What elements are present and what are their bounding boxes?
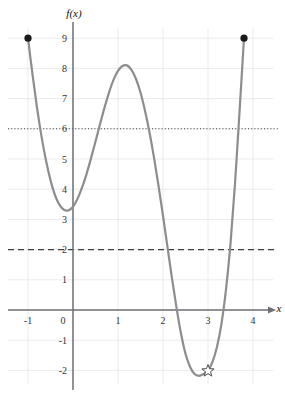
x-tick-label: 1 [116, 315, 121, 326]
y-tick-label: 6 [62, 123, 67, 134]
y-tick-label: -2 [59, 365, 67, 376]
y-tick-label: 5 [62, 154, 67, 165]
x-tick-label: 4 [251, 315, 256, 326]
y-axis-label: f(x) [66, 7, 82, 20]
y-tick-label: 7 [62, 93, 67, 104]
y-tick-label: 4 [62, 184, 67, 195]
y-tick-label: -1 [59, 335, 67, 346]
y-tick-label: 3 [62, 214, 67, 225]
right-endpoint-dot [240, 35, 247, 42]
axes-layer [8, 22, 276, 390]
y-tick-label: 2 [62, 244, 67, 255]
left-endpoint-dot [24, 35, 31, 42]
y-tick-label: 9 [62, 33, 67, 44]
x-tick-label: 2 [161, 315, 166, 326]
x-tick-label: 3 [206, 315, 211, 326]
function-graph-figure: -101234-2-1123456789 f(x)x [0, 0, 285, 395]
axis-titles-layer: f(x)x [66, 7, 281, 314]
x-tick-label: 0 [61, 315, 66, 326]
x-axis-arrowhead [268, 307, 276, 314]
chart-svg: -101234-2-1123456789 f(x)x [0, 0, 285, 395]
y-tick-label: 8 [62, 63, 67, 74]
x-tick-label: -1 [24, 315, 32, 326]
x-axis-label: x [276, 302, 282, 314]
markers-layer [24, 35, 247, 376]
y-tick-label: 1 [62, 274, 67, 285]
